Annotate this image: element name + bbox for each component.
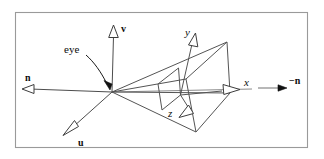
label-eye: eye [64, 43, 79, 55]
label-neg-n-axis: −n [289, 75, 301, 86]
label-v-axis: v [121, 23, 126, 34]
viewing-frustum-diagram: v u n −n x y z eye [0, 0, 324, 159]
label-n-axis: n [25, 72, 31, 83]
label-u-axis: u [78, 137, 84, 148]
label-y-axis: y [184, 26, 190, 38]
figure-container: v u n −n x y z eye [0, 0, 324, 159]
label-z-axis: z [167, 107, 173, 119]
figure-border [16, 13, 308, 148]
label-x-axis: x [243, 76, 249, 88]
